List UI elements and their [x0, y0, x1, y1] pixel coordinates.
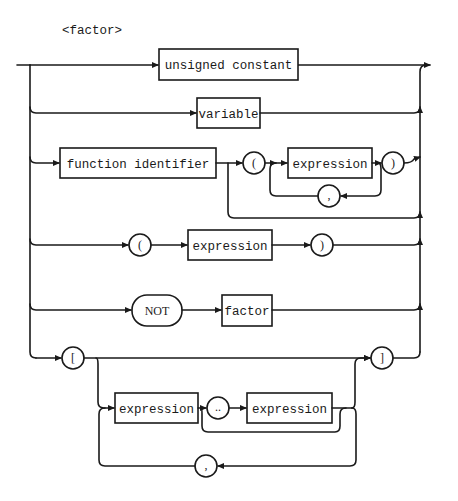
label-function-identifier: function identifier — [67, 158, 210, 172]
alt-not-factor: NOT factor — [30, 295, 420, 326]
connector — [404, 157, 420, 163]
connector — [352, 358, 370, 408]
label-lbracket: [ — [71, 351, 75, 365]
label-variable: variable — [198, 108, 258, 122]
alt-function-call: function identifier ( expression ) , — [30, 148, 420, 218]
connector — [30, 107, 196, 113]
connector — [260, 107, 420, 113]
connector — [30, 157, 59, 163]
connector — [272, 304, 420, 310]
connector — [96, 358, 114, 408]
alt-set: [ ] expression .. expression , — [36, 347, 420, 477]
label-rparen: ) — [320, 238, 324, 252]
connector — [30, 304, 131, 310]
connector — [393, 352, 420, 358]
label-lparen: ( — [138, 238, 142, 252]
diagram-title: <factor> — [62, 24, 122, 38]
label-expression: expression — [292, 158, 367, 172]
label-range: .. — [215, 400, 221, 414]
alt-variable: variable — [30, 98, 420, 128]
connector — [30, 239, 128, 245]
alt-unsigned-constant: unsigned constant — [30, 49, 298, 80]
factor-syntax-diagram: <factor> unsigned constant variable func… — [0, 0, 458, 501]
label-rbracket: ] — [380, 351, 384, 365]
right-rail — [420, 65, 426, 352]
label-not: NOT — [145, 304, 170, 318]
alt-parenthesized: ( expression ) — [30, 230, 420, 260]
label-factor: factor — [224, 305, 269, 319]
label-comma: , — [328, 188, 331, 202]
label-expression: expression — [192, 240, 267, 254]
label-comma: , — [205, 458, 208, 472]
connector — [333, 239, 420, 245]
label-expression: expression — [119, 403, 194, 417]
label-lparen: ( — [252, 156, 256, 170]
label-expression: expression — [252, 403, 327, 417]
label-rparen: ) — [391, 156, 395, 170]
label-unsigned-constant: unsigned constant — [165, 59, 293, 73]
